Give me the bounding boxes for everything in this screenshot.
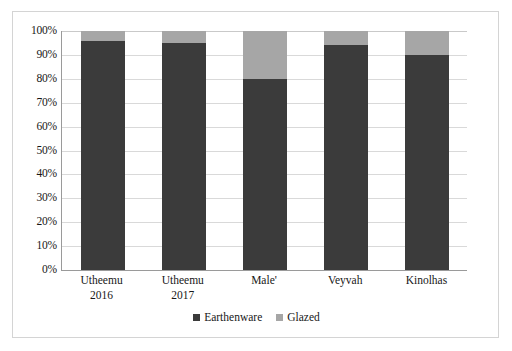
chart-legend: EarthenwareGlazed — [13, 311, 500, 323]
x-axis-tick-labels: Utheemu2016Utheemu2017Male'VeyvahKinolha… — [61, 273, 467, 313]
bar-group — [243, 31, 287, 270]
bar-group — [162, 31, 206, 270]
plot-area — [61, 31, 467, 271]
bar-segment-glazed — [243, 31, 287, 79]
bar-segment-glazed — [405, 31, 449, 55]
y-tick-label: 60% — [13, 121, 57, 133]
stacked-bar — [405, 31, 449, 270]
y-tick-label: 10% — [13, 240, 57, 252]
legend-item-earthenware[interactable]: Earthenware — [193, 311, 262, 323]
y-tick-label: 0% — [13, 264, 57, 276]
legend-label: Earthenware — [204, 311, 262, 323]
chart-frame: 100%90%80%70%60%50%40%30%20%10%0% Utheem… — [12, 11, 499, 338]
x-tick-label: Kinolhas — [386, 273, 467, 288]
stacked-bar — [162, 31, 206, 270]
legend-label: Glazed — [287, 311, 320, 323]
y-tick-label: 100% — [13, 25, 57, 37]
x-tick-label: Male' — [223, 273, 304, 288]
stacked-bar — [324, 31, 368, 270]
legend-swatch-icon — [193, 314, 200, 321]
y-tick-label: 80% — [13, 73, 57, 85]
y-tick-label: 70% — [13, 97, 57, 109]
bar-segment-earthenware — [405, 55, 449, 270]
bar-segment-glazed — [81, 31, 125, 41]
bar-group — [81, 31, 125, 270]
y-tick-label: 90% — [13, 49, 57, 61]
x-tick-label: Veyvah — [305, 273, 386, 288]
y-axis-tick-labels: 100%90%80%70%60%50%40%30%20%10%0% — [13, 31, 57, 271]
bar-segment-glazed — [324, 31, 368, 45]
y-tick-label: 20% — [13, 216, 57, 228]
stacked-bar — [81, 31, 125, 270]
bar-group — [405, 31, 449, 270]
bar-segment-earthenware — [81, 41, 125, 270]
y-tick-label: 50% — [13, 145, 57, 157]
legend-swatch-icon — [276, 314, 283, 321]
x-tick-label: Utheemu2017 — [142, 273, 223, 303]
bar-segment-earthenware — [324, 45, 368, 270]
bar-segment-earthenware — [243, 79, 287, 270]
bar-segment-earthenware — [162, 43, 206, 270]
legend-item-glazed[interactable]: Glazed — [276, 311, 320, 323]
bar-group — [324, 31, 368, 270]
bar-segment-glazed — [162, 31, 206, 43]
stacked-bar — [243, 31, 287, 270]
x-tick-label: Utheemu2016 — [61, 273, 142, 303]
y-tick-label: 40% — [13, 169, 57, 181]
y-tick-label: 30% — [13, 193, 57, 205]
